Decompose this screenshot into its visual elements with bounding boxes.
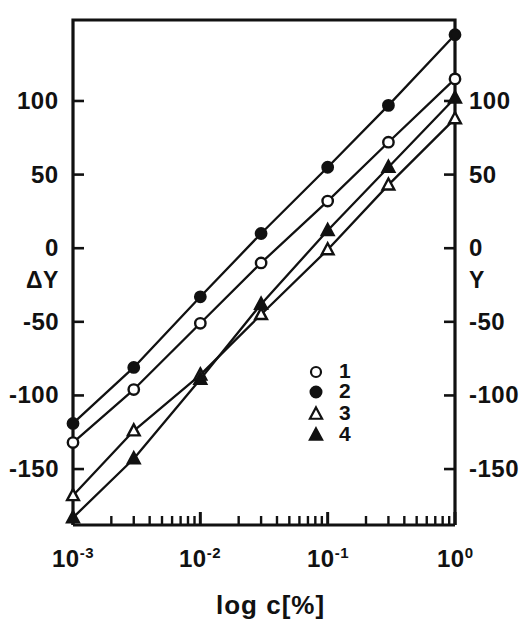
legend-marker-open-triangle <box>310 407 322 418</box>
left-axis-tick-label: -50 <box>23 308 59 336</box>
x-tick-exponent: -2 <box>207 544 221 561</box>
right-axis-tick-label: -100 <box>469 381 519 409</box>
x-tick-exponent: -1 <box>335 544 349 561</box>
left-axis-tick-label: 100 <box>17 87 59 115</box>
left-axis-title: ΔY <box>26 267 59 294</box>
legend-marker-open-circle <box>311 367 321 377</box>
data-point-open-circle <box>383 137 393 147</box>
x-axis-tick-label: 100 <box>437 544 474 573</box>
x-tick-mantissa: 10 <box>52 545 80 572</box>
data-point-filled-circle <box>129 362 139 372</box>
x-tick-mantissa: 10 <box>437 545 465 572</box>
data-point-filled-circle <box>256 228 266 238</box>
right-axis-tick-label: -150 <box>469 455 519 483</box>
legend-marker-filled-triangle <box>310 428 322 439</box>
x-axis-title: log c[%] <box>216 590 325 621</box>
data-point-filled-circle <box>195 292 205 302</box>
x-tick-mantissa: 10 <box>179 545 207 572</box>
data-point-open-circle <box>129 384 139 394</box>
x-tick-exponent: -3 <box>80 544 94 561</box>
legend-marker-filled-circle <box>311 387 322 398</box>
left-axis-tick-label: 50 <box>31 161 59 189</box>
data-point-open-circle <box>195 318 205 328</box>
data-point-open-circle <box>450 74 460 84</box>
data-point-filled-circle <box>450 30 460 40</box>
data-point-filled-circle <box>322 162 332 172</box>
right-axis-tick-label: 100 <box>469 87 511 115</box>
x-axis-tick-label: 10-1 <box>307 544 349 573</box>
right-axis-title: Y <box>469 267 485 294</box>
chart-canvas <box>0 0 529 623</box>
x-tick-exponent: 0 <box>465 544 474 561</box>
right-axis-tick-label: 50 <box>469 161 497 189</box>
right-axis-tick-label: -50 <box>469 308 505 336</box>
data-point-open-circle <box>322 196 332 206</box>
legend-item-label: 4 <box>339 422 351 446</box>
right-axis-tick-label: 0 <box>469 234 483 262</box>
legend-item-label: 2 <box>339 379 351 403</box>
data-point-filled-triangle <box>449 92 461 103</box>
left-axis-tick-label: -150 <box>9 455 59 483</box>
x-axis-tick-label: 10-2 <box>179 544 221 573</box>
figure-panel: 100 50 0 -50 -100 -150 ΔY 100 50 0 -50 -… <box>0 0 529 623</box>
data-point-open-circle <box>68 437 78 447</box>
x-tick-mantissa: 10 <box>307 545 335 572</box>
data-point-open-circle <box>256 258 266 268</box>
x-axis-tick-label: 10-3 <box>52 544 94 573</box>
data-point-open-triangle <box>449 112 461 123</box>
left-axis-tick-label: -100 <box>9 381 59 409</box>
left-axis-tick-label: 0 <box>45 234 59 262</box>
data-point-filled-circle <box>68 418 78 428</box>
data-point-filled-circle <box>383 100 393 110</box>
